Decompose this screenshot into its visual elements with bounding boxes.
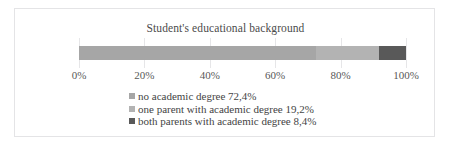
plot-area <box>79 38 406 68</box>
stacked-bar <box>79 46 406 60</box>
chart-frame: Student's educational background 0%20%40… <box>14 8 435 137</box>
legend-swatch-icon <box>129 118 135 124</box>
axis-tick-label: 0% <box>72 69 87 81</box>
legend-item-label: both parents with academic degree 8,4% <box>138 115 316 128</box>
bar-segment <box>316 46 379 60</box>
chart-legend: no academic degree 72,4%one parent with … <box>129 90 429 128</box>
legend-item[interactable]: one parent with academic degree 19,2% <box>129 103 429 116</box>
axis-tick-label: 40% <box>200 69 220 81</box>
bar-segment <box>379 46 406 60</box>
legend-item[interactable]: no academic degree 72,4% <box>129 90 429 103</box>
legend-swatch-icon <box>129 106 135 112</box>
bar-segment <box>79 46 316 60</box>
legend-item-label: no academic degree 72,4% <box>138 90 257 103</box>
axis-tick-label: 80% <box>331 69 351 81</box>
axis-tick-label: 60% <box>265 69 285 81</box>
gridline <box>406 38 407 68</box>
chart-title: Student's educational background <box>15 22 436 34</box>
chart-figure: Student's educational background 0%20%40… <box>0 0 450 147</box>
legend-item[interactable]: both parents with academic degree 8,4% <box>129 115 429 128</box>
axis-tick-label: 20% <box>134 69 154 81</box>
x-axis-tick-labels: 0%20%40%60%80%100% <box>79 69 406 85</box>
legend-item-label: one parent with academic degree 19,2% <box>138 103 314 116</box>
legend-swatch-icon <box>129 93 135 99</box>
axis-tick-label: 100% <box>393 69 419 81</box>
